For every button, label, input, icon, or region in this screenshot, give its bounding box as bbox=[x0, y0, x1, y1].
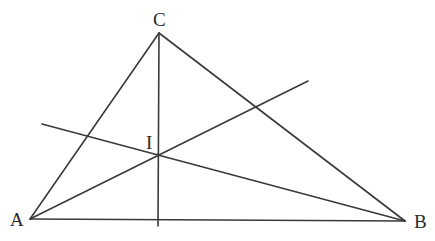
diagram-lines bbox=[0, 0, 435, 241]
triangle-diagram: C I A B bbox=[0, 0, 435, 241]
label-C: C bbox=[153, 10, 166, 29]
line-from-B bbox=[42, 124, 405, 221]
label-B: B bbox=[414, 212, 427, 231]
label-A: A bbox=[10, 210, 24, 229]
line-from-A bbox=[30, 81, 308, 219]
label-I: I bbox=[146, 133, 152, 152]
point-I-dot bbox=[157, 154, 160, 157]
side-BC bbox=[159, 33, 405, 221]
side-AB bbox=[30, 219, 405, 221]
line-from-C bbox=[158, 33, 159, 226]
